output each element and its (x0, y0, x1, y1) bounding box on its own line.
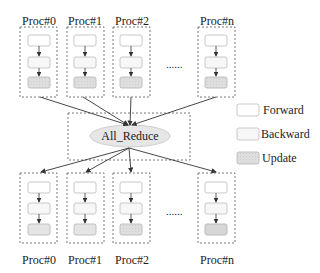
top-proc-0-label: Proc#0 (14, 15, 64, 27)
backward-block (74, 57, 96, 68)
bottom-proc-n-label: Proc#n (192, 254, 242, 266)
top-proc-0 (20, 27, 57, 97)
legend-forward-label: Forward (263, 104, 304, 116)
legend-update-swatch (237, 152, 259, 164)
bottom-proc-1 (67, 173, 104, 243)
top-proc-1-label: Proc#1 (60, 15, 110, 27)
legend-update-label: Update (262, 152, 297, 164)
bottom-proc-n (198, 173, 235, 243)
update-block (74, 77, 96, 88)
forward-block (28, 182, 50, 193)
update-block (74, 224, 96, 235)
top-ellipsis: ...... (166, 59, 183, 69)
forward-block (120, 182, 142, 193)
update-block (120, 224, 142, 235)
backward-block (205, 203, 227, 214)
bottom-proc-0 (20, 173, 57, 243)
backward-block (120, 203, 142, 214)
forward-block (74, 35, 96, 46)
forward-block (205, 182, 227, 193)
backward-block (205, 57, 227, 68)
top-proc-2-label: Proc#2 (107, 15, 157, 27)
bottom-proc-2 (113, 173, 150, 243)
bottom-proc-2-label: Proc#2 (107, 254, 157, 266)
legend-backward-label: Backward (261, 128, 310, 140)
backward-block (28, 203, 50, 214)
update-block (28, 77, 50, 88)
bottom-proc-0-label: Proc#0 (14, 254, 64, 266)
top-proc-n (198, 27, 235, 97)
update-block (205, 224, 227, 235)
backward-block (28, 57, 50, 68)
forward-block (74, 182, 96, 193)
bottom-ellipsis: ...... (166, 206, 183, 216)
backward-block (120, 57, 142, 68)
bottom-proc-1-label: Proc#1 (60, 254, 110, 266)
update-block (205, 77, 227, 88)
forward-block (205, 35, 227, 46)
all-reduce-label: All_Reduce (90, 130, 170, 142)
forward-block (120, 35, 142, 46)
legend-backward-swatch (237, 128, 259, 140)
update-block (120, 77, 142, 88)
legend-forward-swatch (237, 104, 259, 116)
top-proc-2 (113, 27, 150, 97)
top-proc-1 (67, 27, 104, 97)
forward-block (28, 35, 50, 46)
backward-block (74, 203, 96, 214)
update-block (28, 224, 50, 235)
top-proc-n-label: Proc#n (192, 15, 242, 27)
